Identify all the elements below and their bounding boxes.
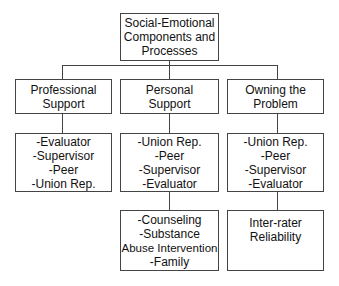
role-item: -Supervisor — [139, 163, 200, 177]
role-item: -Union Rep. — [137, 135, 201, 149]
detail-item: -Counseling — [137, 213, 201, 227]
root-node: Social-Emotional Components and Processe… — [120, 13, 219, 61]
role-item: -Supervisor — [33, 149, 94, 163]
root-line: Processes — [141, 44, 197, 58]
col1-roles-connector — [62, 113, 63, 133]
role-item: -Evaluator — [248, 177, 303, 191]
root-line: Components and — [124, 30, 215, 44]
col2-connector — [169, 65, 170, 79]
owning-the-problem-node: Owning the Problem — [227, 79, 324, 114]
detail-item: Inter-rater — [249, 216, 302, 230]
header-line: Owning the — [245, 83, 306, 97]
header-line: Support — [148, 97, 190, 111]
col3-roles-connector — [277, 113, 278, 133]
owning-roles-node: -Union Rep. -Peer -Supervisor -Evaluator — [227, 133, 324, 192]
personal-support-node: Personal Support — [120, 79, 219, 114]
professional-support-node: Professional Support — [15, 79, 112, 114]
role-item: -Peer — [261, 149, 290, 163]
role-item: -Evaluator — [36, 135, 91, 149]
personal-detail-node: -Counseling -Substance Abuse Interventio… — [120, 210, 219, 271]
header-line: Personal — [146, 83, 193, 97]
role-item: -Peer — [49, 163, 78, 177]
detail-item: -Substance — [139, 227, 200, 241]
professional-roles-node: -Evaluator -Supervisor -Peer -Union Rep. — [15, 133, 112, 192]
header-line: Problem — [253, 97, 298, 111]
role-item: -Peer — [155, 149, 184, 163]
detail-item: -Family — [150, 255, 189, 269]
detail-item: Reliability — [250, 230, 301, 244]
header-line: Support — [42, 97, 84, 111]
col3-connector — [277, 65, 278, 79]
branch-connector — [62, 65, 278, 66]
role-item: -Supervisor — [245, 163, 306, 177]
col2-roles-connector — [169, 113, 170, 133]
detail-item: Abuse Intervention — [122, 241, 218, 255]
col1-connector — [62, 65, 63, 79]
role-item: -Union Rep. — [31, 177, 95, 191]
header-line: Professional — [30, 83, 96, 97]
root-line: Social-Emotional — [124, 16, 214, 30]
col2-detail-connector — [169, 191, 170, 210]
col3-detail-connector — [277, 191, 278, 210]
role-item: -Evaluator — [142, 177, 197, 191]
personal-roles-node: -Union Rep. -Peer -Supervisor -Evaluator — [120, 133, 219, 192]
role-item: -Union Rep. — [243, 135, 307, 149]
owning-detail-node: Inter-rater Reliability — [227, 210, 324, 271]
